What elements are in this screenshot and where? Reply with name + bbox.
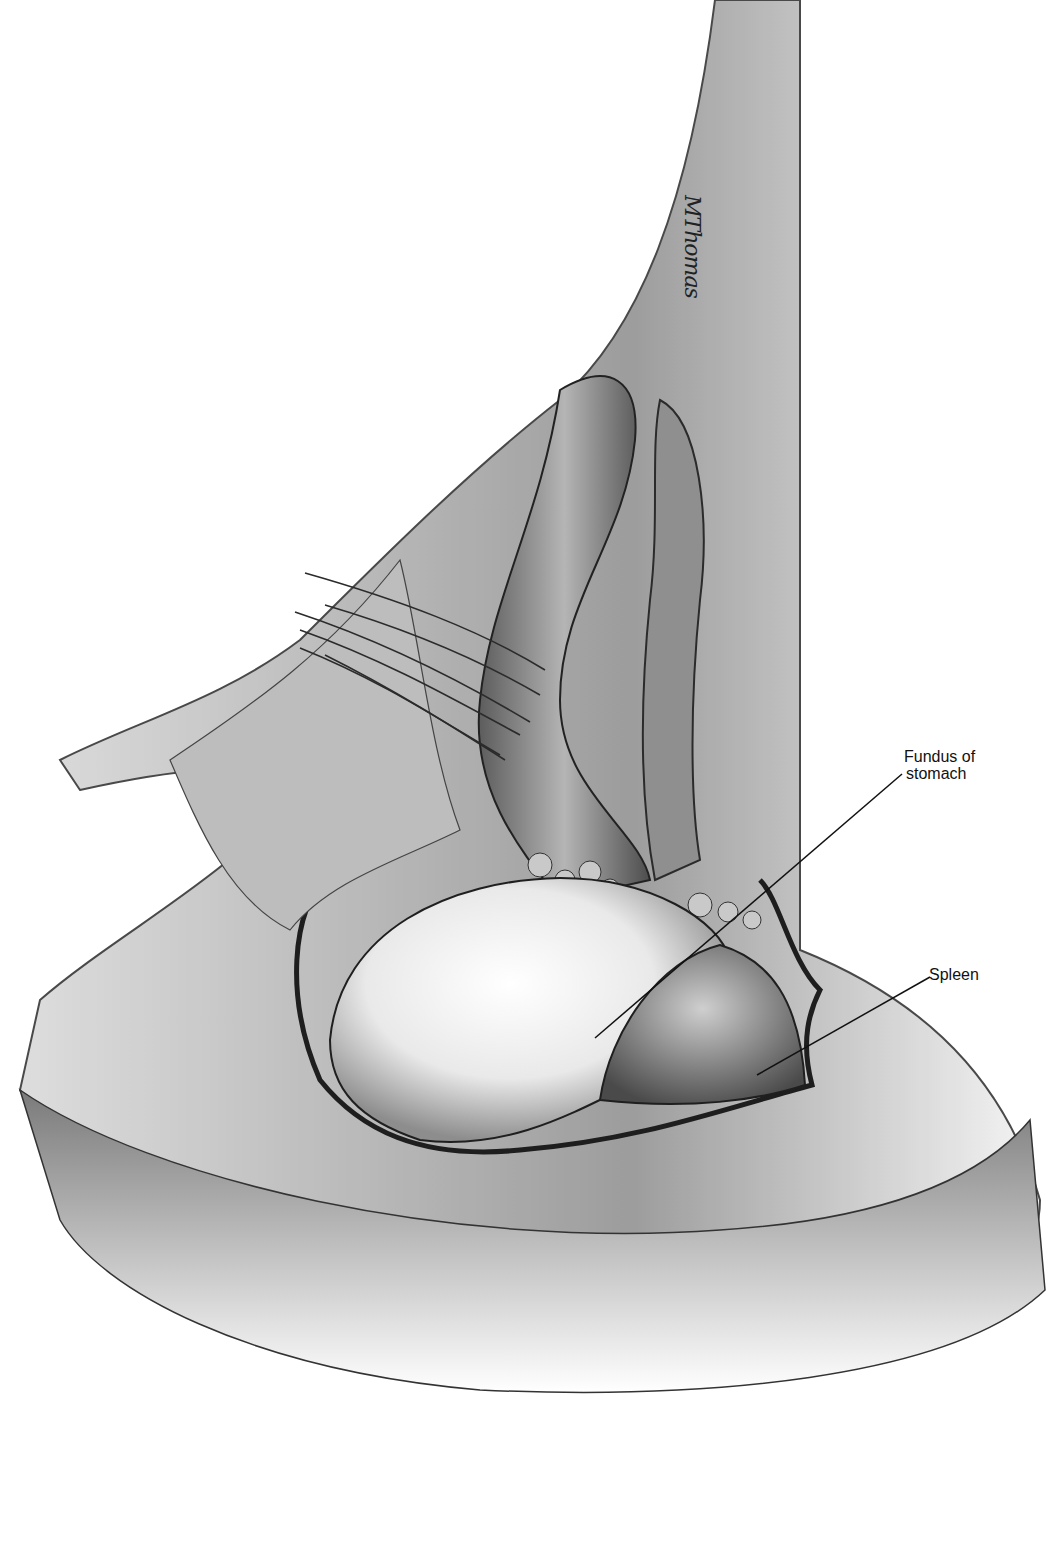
artist-signature: MThomas: [680, 195, 705, 298]
illustration-canvas: Fundus of stomach Spleen MThomas: [0, 0, 1053, 1547]
anatomy-illustration: [0, 0, 1053, 1547]
spleen-label: Spleen: [929, 966, 979, 983]
fundus-label-line2: stomach: [904, 765, 1014, 782]
fundus-label: Fundus of stomach: [904, 748, 1014, 782]
fundus-label-line1: Fundus of: [904, 748, 1014, 765]
